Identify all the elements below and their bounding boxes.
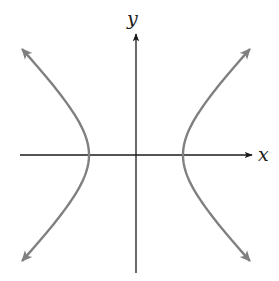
hyperbola-right-branch-lower — [183, 155, 250, 261]
x-axis-label: x — [258, 143, 269, 165]
hyperbola-left-branch-upper — [22, 49, 89, 155]
hyperbola-diagram: x y — [0, 0, 279, 281]
hyperbola-left-branch-lower — [22, 155, 89, 261]
y-axis-label: y — [126, 7, 138, 29]
hyperbola-right-branch-upper — [183, 49, 250, 155]
